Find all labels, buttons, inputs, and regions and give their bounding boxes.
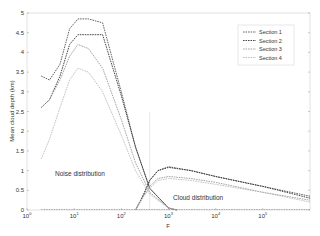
y-tick-label: 1.5 — [16, 148, 25, 154]
x-tick-label: 104 — [211, 211, 221, 219]
x-tick-label: 105 — [258, 211, 268, 219]
annotation-noise-distribution: Noise distribution — [55, 170, 105, 177]
y-tick-label: 3 — [21, 89, 25, 95]
x-axis-label: F — [166, 223, 170, 229]
y-axis-label: Mean cloud depth (km) — [9, 80, 15, 141]
y-tick-label: 1 — [21, 168, 25, 174]
legend-label: Section 4 — [259, 55, 282, 61]
legend: Section 1Section 2Section 3Section 4 — [238, 25, 294, 65]
x-tick-label: 100 — [23, 211, 33, 219]
y-tick-label: 0.5 — [16, 187, 25, 193]
y-tick-label: 4.5 — [16, 30, 25, 36]
x-tick-label: 101 — [70, 211, 80, 219]
x-tick-label: 102 — [117, 211, 127, 219]
y-tick-label: 5 — [21, 10, 25, 16]
y-tick-label: 2 — [21, 128, 25, 134]
y-tick-label: 2.5 — [16, 109, 25, 115]
x-tick-label: 103 — [164, 211, 174, 219]
legend-label: Section 1 — [259, 29, 282, 35]
legend-label: Section 3 — [259, 46, 282, 52]
y-tick-label: 4 — [21, 49, 25, 55]
y-tick-label: 3.5 — [16, 69, 25, 75]
line-chart: 00.511.522.533.544.55 100101102103104105… — [0, 0, 320, 236]
legend-label: Section 2 — [259, 38, 282, 44]
annotation-cloud-distribution: Cloud distribution — [173, 194, 224, 201]
